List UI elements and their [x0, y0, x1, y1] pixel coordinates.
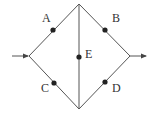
node-c-label: C — [41, 82, 49, 94]
node-c-dot — [51, 80, 56, 85]
node-b-dot — [102, 27, 107, 32]
node-e-dot — [76, 54, 81, 59]
node-d-label: D — [112, 82, 121, 94]
network-diagram — [0, 0, 159, 118]
node-b-label: B — [112, 12, 120, 24]
node-d-dot — [102, 79, 107, 84]
node-e-label: E — [85, 48, 92, 60]
node-a-dot — [50, 27, 55, 32]
node-a-label: A — [42, 12, 51, 24]
diagram-canvas: A B C D E — [0, 0, 159, 118]
